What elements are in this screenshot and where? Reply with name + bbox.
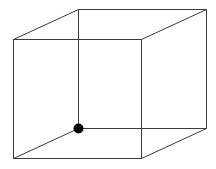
cube-diagram xyxy=(0,0,216,169)
edge-connector-bottom-right xyxy=(142,129,207,159)
edge-connector-top-left xyxy=(14,10,79,40)
highlighted-vertex-dot xyxy=(74,124,84,134)
edge-connector-top-right xyxy=(142,10,207,40)
edge-connector-bottom-left xyxy=(14,129,79,159)
